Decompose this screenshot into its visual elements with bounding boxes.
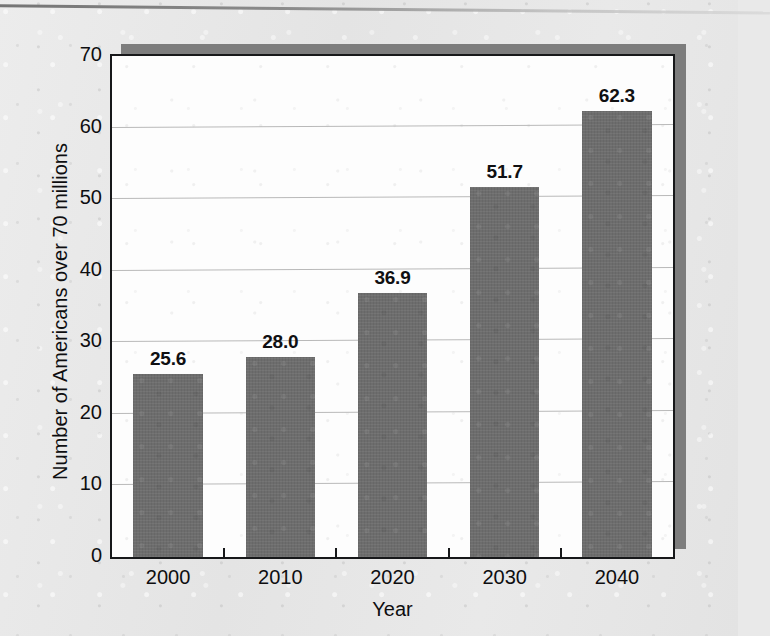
plot-area [110, 54, 675, 559]
y-axis-title: Number of Americans over 70 millions [49, 77, 72, 547]
y-axis-tick-label: 10 [80, 472, 102, 495]
x-axis-tick-label: 2040 [561, 566, 673, 589]
x-axis-tick-mark [335, 548, 337, 559]
bar [470, 187, 540, 557]
x-axis-tick-label: 2010 [224, 566, 336, 589]
x-axis-tick-label: 2030 [449, 566, 561, 589]
bar [582, 111, 652, 557]
y-axis-tick-label: 70 [80, 43, 102, 66]
x-axis-tick-mark [448, 548, 450, 559]
bar [246, 357, 316, 557]
bar-value-label: 51.7 [449, 161, 561, 183]
bar-value-label: 36.9 [336, 267, 448, 289]
x-axis-tick-label: 2000 [112, 566, 224, 589]
y-axis-tick-label: 50 [80, 186, 102, 209]
bar-value-label: 62.3 [561, 85, 673, 107]
bar [133, 374, 203, 557]
y-axis-tick-label: 40 [80, 258, 102, 281]
y-axis-tick-label: 30 [80, 329, 102, 352]
y-axis-tick-label: 60 [80, 115, 102, 138]
bar-value-label: 28.0 [224, 331, 336, 353]
bar [358, 293, 428, 557]
y-axis-tick-label: 0 [91, 544, 102, 567]
x-axis-title: Year [110, 598, 675, 621]
x-axis-tick-mark [560, 548, 562, 559]
y-axis-tick-label: 20 [80, 401, 102, 424]
x-axis-tick-mark [223, 548, 225, 559]
bar-value-label: 25.6 [112, 348, 224, 370]
x-axis-tick-label: 2020 [336, 566, 448, 589]
